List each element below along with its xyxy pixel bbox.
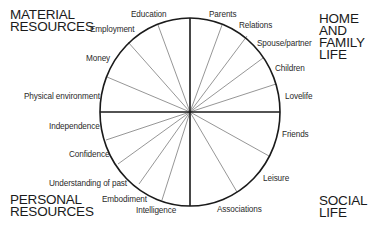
quadrant-material-resources: MATERIAL RESOURCES: [10, 9, 94, 33]
spoke-line: [128, 42, 190, 112]
spoke-line: [190, 84, 276, 112]
spoke-line: [190, 36, 247, 112]
spoke-line: [139, 112, 190, 184]
quadrant-line: RESOURCES: [10, 21, 94, 33]
spoke-line: [106, 112, 190, 140]
label-leisure: Leisure: [263, 174, 289, 183]
spoke-line: [162, 112, 190, 200]
spoke-line: [190, 25, 222, 112]
quadrant-personal-resources: PERSONAL RESOURCES: [10, 194, 94, 218]
spoke-line: [158, 25, 190, 112]
spoke-line: [190, 112, 237, 192]
quadrant-line: RESOURCES: [10, 206, 94, 218]
label-associations: Associations: [217, 205, 262, 214]
spoke-line: [107, 77, 190, 112]
label-lovelife: Lovelife: [285, 92, 312, 101]
spoke-line: [190, 58, 263, 112]
spoke-line: [190, 112, 269, 156]
label-physical-environment: Physical environment: [24, 92, 100, 101]
label-education: Education: [131, 10, 167, 19]
label-confidence: Confidence: [69, 150, 109, 159]
label-understanding-of-past: Understanding of past: [49, 179, 127, 188]
label-intelligence: Intelligence: [136, 206, 176, 215]
quadrant-line: LIFE: [319, 49, 365, 61]
quadrant-social-life: SOCIAL LIFE: [319, 195, 367, 219]
label-relations: Relations: [239, 21, 272, 30]
label-spouse-partner: Spouse/partner: [257, 39, 312, 48]
label-children: Children: [275, 64, 305, 73]
life-domains-wheel-diagram: MATERIAL RESOURCES HOME AND FAMILY LIFE …: [0, 0, 368, 225]
spoke-line: [118, 112, 190, 164]
label-employment: Employment: [90, 25, 135, 34]
label-independence: Independence: [49, 122, 100, 131]
label-money: Money: [86, 54, 110, 63]
label-friends: Friends: [282, 130, 309, 139]
quadrant-line: LIFE: [319, 207, 367, 219]
label-parents: Parents: [209, 10, 237, 19]
label-embodiment: Embodiment: [102, 195, 147, 204]
quadrant-home-family-life: HOME AND FAMILY LIFE: [319, 13, 365, 61]
